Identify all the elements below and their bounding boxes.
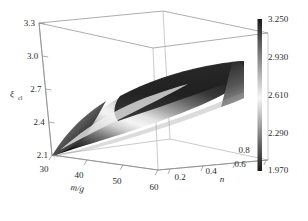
y-tick-label-0.6: 0.6 (234, 159, 246, 169)
x-axis-line (52, 155, 158, 170)
x-tick-50 (120, 165, 123, 170)
colorbar-label-1.970: 1.970 (268, 165, 289, 175)
z-tick-label-3.3: 3.3 (24, 18, 36, 28)
z-tick-3.3 (39, 23, 45, 24)
x-tick-30 (49, 155, 52, 160)
x-axis-title: m/g (70, 182, 85, 194)
box-edge-back-left (163, 11, 170, 139)
y-axis-title: n (220, 174, 225, 184)
z-tick-label-3.0: 3.0 (27, 51, 39, 61)
colorbar-label-3.250: 3.250 (268, 14, 289, 24)
z-axis-title-subscript: cl (18, 95, 23, 101)
x-axis: 30 40 50 60 m/g (40, 155, 160, 194)
z-tick-label-2.7: 2.7 (30, 84, 42, 94)
box-top-face (39, 11, 268, 48)
z-tick-3.0 (42, 56, 48, 57)
z-tick-2.7 (46, 89, 52, 90)
x-tick-label-50: 50 (113, 176, 123, 186)
x-tick-40 (84, 160, 87, 165)
plot-canvas: 3.3 3.0 2.7 2.4 2.1 ξ cl 30 40 50 60 m/g (0, 0, 308, 221)
x-tick-60 (155, 170, 158, 175)
y-tick-label-0.8: 0.8 (238, 145, 250, 155)
colorbar-label-2.930: 2.930 (268, 52, 289, 62)
z-axis: 3.3 3.0 2.7 2.4 2.1 ξ cl (10, 18, 58, 160)
z-tick-label-2.4: 2.4 (33, 117, 45, 127)
colorbar-label-2.290: 2.290 (268, 128, 289, 138)
x-tick-label-40: 40 (75, 170, 85, 180)
z-axis-title-symbol: ξ (10, 89, 14, 99)
box-floor-edge-back-y (170, 139, 268, 160)
surface-mesh (52, 61, 244, 157)
surface-plot-figure: 3.3 3.0 2.7 2.4 2.1 ξ cl 30 40 50 60 m/g (0, 0, 308, 221)
y-tick-0.2 (168, 169, 170, 174)
y-tick-label-0.4: 0.4 (205, 166, 217, 176)
y-tick-0.4 (201, 166, 203, 171)
y-tick-0.8 (264, 160, 266, 165)
colorbar-label-2.610: 2.610 (268, 90, 289, 100)
colorbar: 3.250 2.930 2.610 2.290 1.970 (258, 14, 289, 175)
z-axis-title: ξ cl (10, 89, 23, 101)
x-tick-label-30: 30 (40, 164, 50, 174)
z-tick-label-2.1: 2.1 (37, 150, 48, 160)
y-axis: 0.2 0.4 0.6 0.8 n (158, 145, 268, 184)
x-tick-label-60: 60 (150, 182, 160, 192)
y-tick-label-0.2: 0.2 (174, 172, 185, 182)
colorbar-gradient-strip (258, 19, 263, 171)
z-tick-2.4 (49, 122, 55, 123)
